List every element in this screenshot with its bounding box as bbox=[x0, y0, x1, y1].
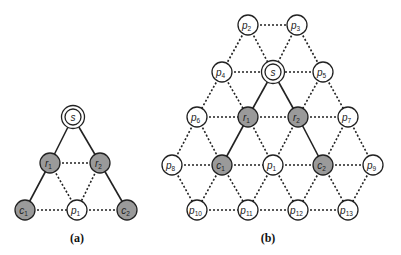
node-b-p1: p1 bbox=[263, 155, 283, 175]
node-b-p6: p6 bbox=[187, 107, 207, 127]
node-b-c2: c2 bbox=[313, 155, 333, 175]
node-b-p11: p11 bbox=[238, 200, 258, 220]
node-a-r2: r2 bbox=[90, 153, 110, 173]
node-b-p7: p7 bbox=[338, 107, 358, 127]
node-subscript: 2 bbox=[98, 162, 102, 169]
node-a-c2: c2 bbox=[117, 200, 137, 220]
node-subscript: 10 bbox=[195, 209, 203, 216]
caption-a: (a) bbox=[70, 231, 84, 245]
node-subscript: 1 bbox=[76, 209, 80, 216]
node-subscript: 9 bbox=[372, 164, 376, 171]
captions-layer: (a)(b) bbox=[70, 231, 275, 245]
node-subscript: 1 bbox=[272, 164, 276, 171]
node-subscript: 6 bbox=[196, 116, 200, 123]
network-diagram-canvas: sr1r2c1p1c2p2p3p4sp5p6r1r2p7p8c1p1c2p9p1… bbox=[0, 0, 401, 255]
node-subscript: 2 bbox=[296, 116, 300, 123]
node-b-r1: r1 bbox=[238, 107, 258, 127]
node-subscript: 7 bbox=[347, 116, 351, 123]
node-subscript: 4 bbox=[221, 71, 225, 78]
node-subscript: 1 bbox=[24, 209, 28, 216]
node-b-p2: p2 bbox=[238, 15, 258, 35]
node-label: s bbox=[271, 67, 276, 78]
caption-b: (b) bbox=[261, 231, 276, 245]
node-a-s: s bbox=[62, 106, 85, 129]
node-label: s bbox=[71, 112, 76, 123]
node-b-r2: r2 bbox=[288, 107, 308, 127]
node-b-p5: p5 bbox=[313, 62, 333, 82]
node-subscript: 3 bbox=[296, 24, 300, 31]
node-b-p10: p10 bbox=[187, 200, 207, 220]
node-subscript: 1 bbox=[246, 116, 250, 123]
node-subscript: 1 bbox=[48, 162, 52, 169]
node-subscript: 2 bbox=[247, 24, 251, 31]
node-b-c1: c1 bbox=[212, 155, 232, 175]
node-subscript: 11 bbox=[246, 209, 253, 216]
node-subscript: 2 bbox=[322, 164, 326, 171]
node-subscript: 2 bbox=[126, 209, 130, 216]
node-a-r1: r1 bbox=[40, 153, 60, 173]
node-b-p12: p12 bbox=[288, 200, 308, 220]
node-a-p1: p1 bbox=[67, 200, 87, 220]
node-b-p3: p3 bbox=[287, 15, 307, 35]
node-subscript: 5 bbox=[322, 71, 326, 78]
node-subscript: 1 bbox=[221, 164, 225, 171]
node-b-p9: p9 bbox=[363, 155, 383, 175]
node-b-p4: p4 bbox=[212, 62, 232, 82]
node-subscript: 13 bbox=[346, 209, 354, 216]
node-b-p8: p8 bbox=[162, 155, 182, 175]
node-b-p13: p13 bbox=[338, 200, 358, 220]
node-subscript: 12 bbox=[296, 209, 304, 216]
node-subscript: 8 bbox=[171, 164, 175, 171]
node-a-c1: c1 bbox=[15, 200, 35, 220]
node-b-s: s bbox=[262, 61, 285, 84]
